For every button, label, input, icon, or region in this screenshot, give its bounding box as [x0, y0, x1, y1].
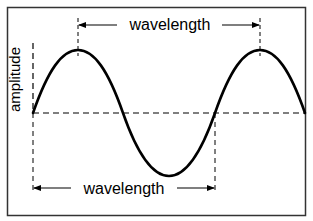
wave-diagram: amplitude wavelength wavelength [0, 0, 313, 221]
amplitude-label: amplitude [6, 47, 23, 112]
top-wavelength-label: wavelength [129, 16, 211, 33]
bottom-wavelength-label: wavelength [83, 180, 165, 197]
